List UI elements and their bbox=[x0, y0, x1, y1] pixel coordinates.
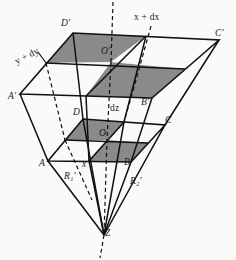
edge-label-x: x bbox=[82, 160, 86, 170]
vertex-label-B-prime: B′ bbox=[141, 98, 149, 108]
vertex-label-O: O bbox=[99, 129, 106, 139]
vertex-label-O-prime: O′ bbox=[101, 47, 110, 57]
radius-label-R1-prime: R₁′ bbox=[64, 172, 76, 182]
vertex-label-D-prime: D′ bbox=[61, 19, 70, 29]
dashed-axis-below-z bbox=[100, 235, 104, 258]
apex-label-Z: Z bbox=[105, 229, 110, 239]
vertex-label-B: B bbox=[124, 158, 130, 168]
figure-container: D′ C′ A′ B′ O′ D C A B O Z x + dx y + dy… bbox=[0, 0, 236, 260]
radius-label-R2-prime: R₂′ bbox=[130, 177, 142, 187]
vertex-label-D: D bbox=[73, 108, 80, 118]
edge-label-x-plus-dx: x + dx bbox=[134, 13, 160, 23]
edge-label-dz: dz bbox=[110, 104, 119, 114]
geometry-diagram bbox=[0, 0, 236, 260]
vertex-label-C: C bbox=[165, 116, 172, 126]
vertex-label-A: A bbox=[39, 159, 45, 169]
vertex-label-C-prime: C′ bbox=[215, 29, 224, 39]
vertex-label-A-prime: A′ bbox=[8, 92, 16, 102]
